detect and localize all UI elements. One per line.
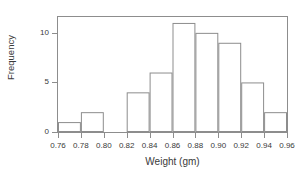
histogram-bar xyxy=(59,123,81,132)
x-tick-mark xyxy=(287,133,288,138)
x-tick-label: 0.92 xyxy=(233,140,249,151)
y-tick-label: 5 xyxy=(45,76,49,87)
histogram-bar xyxy=(219,43,241,131)
x-tick-label: 0.90 xyxy=(211,140,227,151)
histogram-bar xyxy=(265,113,287,132)
plot-frame xyxy=(57,16,288,133)
x-axis-title: Weight (gm) xyxy=(57,156,288,168)
x-tick-mark xyxy=(104,133,105,138)
histogram-bars xyxy=(58,17,287,132)
x-tick-label: 0.76 xyxy=(50,140,66,151)
x-tick-mark xyxy=(150,133,151,138)
x-tick-label: 0.80 xyxy=(96,140,112,151)
y-tick-label: 0 xyxy=(45,126,49,137)
y-axis: Frequency 0510 xyxy=(0,0,57,177)
y-tick: 5 xyxy=(0,82,57,83)
x-tick-mark xyxy=(173,133,174,138)
x-axis: 0.760.780.800.820.840.860.880.900.920.94… xyxy=(57,133,288,177)
histogram-bar xyxy=(242,83,264,132)
x-tick-label: 0.78 xyxy=(73,140,89,151)
x-tick-label: 0.84 xyxy=(142,140,158,151)
x-tick-label: 0.88 xyxy=(188,140,204,151)
x-tick-mark xyxy=(218,133,219,138)
x-tick-label: 0.86 xyxy=(165,140,181,151)
y-tick-label: 10 xyxy=(40,27,49,38)
x-tick-mark xyxy=(241,133,242,138)
histogram-bar xyxy=(150,73,172,131)
histogram-bar xyxy=(196,33,218,131)
x-tick-label: 0.94 xyxy=(256,140,272,151)
plot-area xyxy=(58,17,289,134)
histogram-bar xyxy=(173,23,195,131)
x-tick-mark xyxy=(264,133,265,138)
y-axis-title: Frequency xyxy=(5,26,16,90)
x-tick-label: 0.82 xyxy=(119,140,135,151)
histogram-bar xyxy=(81,113,103,132)
y-tick: 0 xyxy=(0,132,57,133)
x-tick-label: 0.96 xyxy=(279,140,295,151)
x-tick-mark xyxy=(81,133,82,138)
histogram-figure: Frequency 0510 0.760.780.800.820.840.860… xyxy=(0,0,302,177)
y-tick: 10 xyxy=(0,33,57,34)
x-tick-mark xyxy=(195,133,196,138)
x-tick-mark xyxy=(127,133,128,138)
x-tick-mark xyxy=(58,133,59,138)
histogram-bar xyxy=(127,93,149,132)
